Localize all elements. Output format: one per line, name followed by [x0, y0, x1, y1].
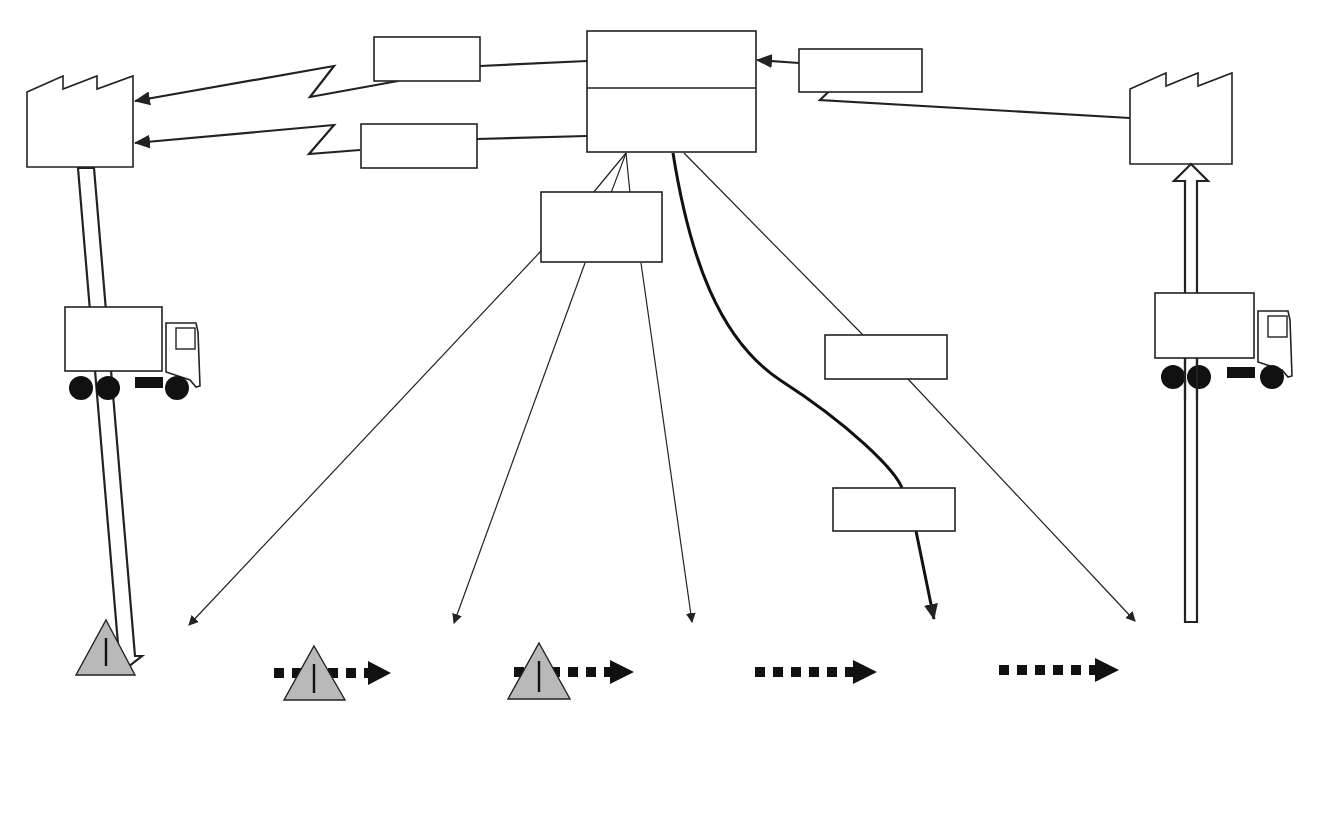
truck-wheel-icon — [1187, 365, 1211, 389]
electronic-forecast-flow-arrow — [135, 66, 398, 101]
supplier-purchase-order-box — [361, 124, 477, 168]
pack-list-flow-line — [673, 153, 902, 488]
electronic-forecast-flow — [480, 61, 587, 66]
electronic-po-flow — [477, 136, 587, 139]
push-flow-assembly-packaging — [755, 660, 877, 684]
truck-bumper — [135, 377, 163, 388]
ship-schedule-box — [825, 335, 947, 379]
push-arrowhead-icon — [853, 660, 877, 684]
schedule-to-paint-arrow — [454, 263, 585, 623]
schedule-flow-line — [593, 153, 626, 193]
outbound-shipment-arrow — [1174, 164, 1208, 622]
truck-wheel-icon — [96, 376, 120, 400]
customer-factory — [1130, 73, 1232, 164]
production-control-box — [587, 31, 756, 152]
factory-icon — [27, 76, 133, 167]
push-arrowhead-icon — [610, 660, 634, 684]
truck-wheel-icon — [1260, 365, 1284, 389]
value-stream-map — [0, 0, 1333, 815]
supplier-factory — [27, 76, 133, 167]
truck-window — [1268, 316, 1287, 337]
push-flow-packaging-shipping — [999, 658, 1119, 682]
ship-schedule-flow-line — [684, 153, 863, 335]
push-arrowhead-icon — [368, 661, 391, 685]
outbound-truck — [1155, 293, 1292, 400]
inbound-truck — [65, 307, 200, 400]
electronic-po-flow-arrow — [135, 125, 360, 154]
push-arrow-icon — [1174, 164, 1208, 622]
pack-list-to-packaging-arrow — [916, 531, 934, 619]
inbound-shipment-arrow — [78, 168, 142, 670]
truck-bumper — [1227, 367, 1255, 378]
schedule-to-assembly-arrow — [641, 263, 692, 622]
truck-wheel-icon — [69, 376, 93, 400]
daily-production-schedule-box — [541, 192, 662, 262]
truck-wheel-icon — [1161, 365, 1185, 389]
electronic-customer-po-flow-end — [757, 60, 799, 63]
forecast-box — [374, 37, 480, 81]
customer-purchase-order-box — [799, 49, 922, 92]
truck-wheel-icon — [165, 376, 189, 400]
factory-icon — [1130, 73, 1232, 164]
pack-list-box — [833, 488, 955, 531]
schedule-flow-line — [611, 153, 626, 193]
schedule-flow-line — [626, 153, 630, 193]
push-arrow-icon — [78, 168, 142, 670]
truck-window — [176, 328, 195, 349]
schedule-to-fab-arrow — [189, 251, 541, 625]
push-arrowhead-icon — [1095, 658, 1119, 682]
